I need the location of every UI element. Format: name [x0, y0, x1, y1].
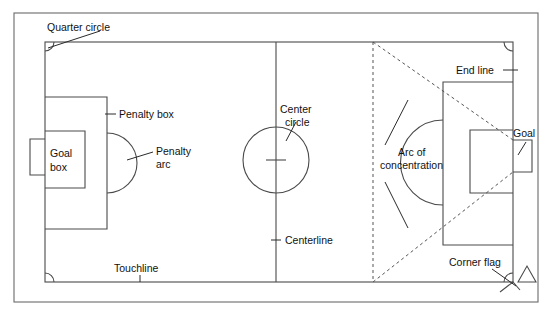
leader-quarter-circle: [48, 31, 100, 48]
leader-arc-lower: [385, 182, 408, 228]
right-goal: [513, 140, 532, 172]
label-goal-box-line1: Goal: [50, 147, 72, 159]
label-arc-of-concentration-line1: Arc of: [398, 146, 426, 158]
label-goal-box-line2: box: [50, 161, 68, 173]
soccer-field-diagram: Quarter circle Penalty box Penalty arc G…: [0, 0, 553, 315]
label-center-circle-line2: circle: [285, 116, 310, 128]
right-goal-box: [470, 130, 513, 193]
left-goal-box: [45, 131, 85, 188]
left-penalty-arc: [107, 133, 137, 193]
label-touchline: Touchline: [114, 262, 159, 274]
corner-flag-icon: [518, 266, 536, 282]
leader-arc-upper: [385, 100, 408, 145]
leader-penalty-arc: [127, 152, 153, 160]
label-end-line: End line: [456, 64, 494, 76]
label-center-circle-line1: Center: [280, 103, 312, 115]
right-penalty-box: [443, 82, 513, 245]
corner-arc-top-right: [504, 42, 513, 51]
label-penalty-arc-line1: Penalty: [156, 145, 192, 157]
label-quarter-circle: Quarter circle: [47, 21, 110, 33]
label-arc-of-concentration-line2: concentration: [380, 159, 443, 171]
corner-arc-bottom-left: [45, 273, 54, 282]
leader-corner-flag: [492, 269, 516, 286]
label-penalty-box: Penalty box: [119, 108, 175, 120]
left-goal: [30, 139, 45, 175]
leader-goal: [518, 142, 526, 155]
corner-flag-pointer: [500, 282, 520, 292]
label-penalty-arc-line2: arc: [156, 158, 171, 170]
label-corner-flag: Corner flag: [449, 256, 501, 268]
diagram-page: Quarter circle Penalty box Penalty arc G…: [0, 0, 553, 315]
label-centerline: Centerline: [285, 234, 333, 246]
label-goal: Goal: [513, 127, 535, 139]
